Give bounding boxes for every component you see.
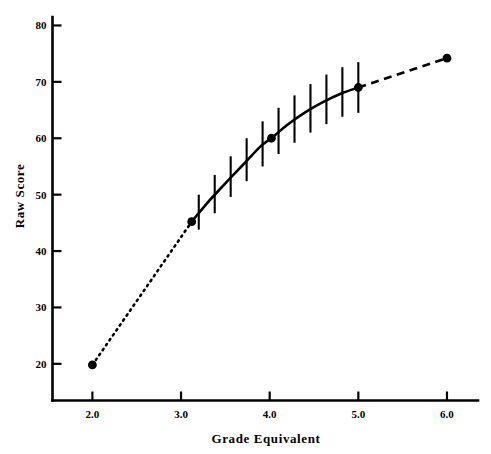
series-extrapolated-lower bbox=[92, 222, 191, 365]
y-axis-title: Raw Score bbox=[12, 164, 27, 229]
y-tick-label: 80 bbox=[36, 19, 48, 31]
x-tick-label: 6.0 bbox=[440, 408, 454, 420]
error-bars-layer bbox=[199, 62, 359, 229]
data-markers-layer bbox=[88, 54, 451, 370]
data-point-marker bbox=[267, 134, 276, 143]
raw-score-vs-grade-equivalent-plot: 20304050607080 2.03.04.05.06.0 Raw Score… bbox=[0, 0, 491, 454]
data-point-marker bbox=[88, 361, 97, 370]
x-tick-label: 3.0 bbox=[174, 408, 188, 420]
axes bbox=[53, 17, 479, 401]
y-tick-label: 30 bbox=[36, 301, 48, 313]
y-tick-label: 50 bbox=[36, 189, 48, 201]
data-series-layer bbox=[92, 58, 447, 365]
y-tick-label: 20 bbox=[36, 358, 48, 370]
y-tick-label: 70 bbox=[36, 76, 48, 88]
data-point-marker bbox=[443, 54, 452, 63]
x-tick-label: 2.0 bbox=[86, 408, 100, 420]
chart-figure: 20304050607080 2.03.04.05.06.0 Raw Score… bbox=[0, 0, 491, 454]
data-point-marker bbox=[187, 217, 196, 226]
series-fitted-with-error-bars bbox=[192, 87, 359, 221]
data-point-marker bbox=[354, 83, 363, 92]
y-tick-label: 60 bbox=[36, 132, 48, 144]
series-extrapolated-upper bbox=[358, 58, 447, 87]
y-tick-label: 40 bbox=[36, 245, 48, 257]
y-axis-ticks: 20304050607080 bbox=[36, 19, 62, 369]
x-axis-title: Grade Equivalent bbox=[212, 431, 321, 446]
x-tick-label: 5.0 bbox=[351, 408, 365, 420]
x-axis-ticks: 2.03.04.05.06.0 bbox=[86, 392, 455, 420]
x-tick-label: 4.0 bbox=[263, 408, 277, 420]
